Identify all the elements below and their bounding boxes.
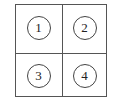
circled-number-1: 1 — [27, 16, 51, 40]
cell-1: 1 — [16, 5, 61, 51]
cell-2: 2 — [62, 5, 107, 51]
cell-4: 4 — [62, 53, 107, 99]
grid-2x2: 1 2 3 4 — [15, 4, 107, 97]
circled-number-4: 4 — [73, 64, 97, 88]
circled-number-2: 2 — [73, 16, 97, 40]
circled-number-3: 3 — [27, 64, 51, 88]
cell-3: 3 — [16, 53, 61, 99]
